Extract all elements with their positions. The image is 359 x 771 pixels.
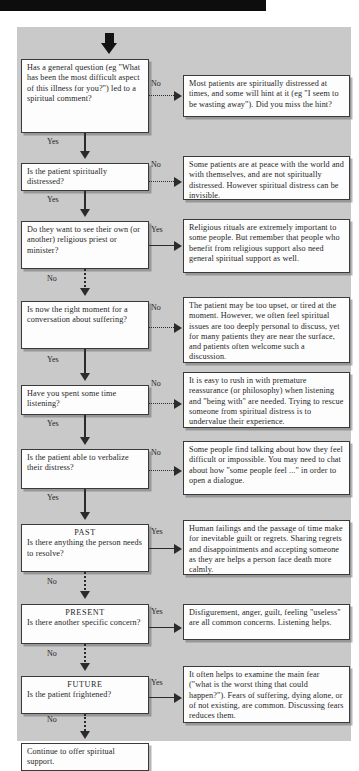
edge-q1-no-arrowhead: [174, 91, 182, 101]
edge-label-q7-yes: Yes: [151, 527, 163, 536]
edge-label-q4-no: No: [151, 303, 161, 312]
question-heading-q9: FUTURE: [27, 680, 143, 690]
edge-q7-no-arrowhead: [80, 591, 90, 599]
question-heading-q7: PAST: [27, 528, 143, 538]
response-node-r1: Most patients are spiritually distressed…: [183, 75, 350, 117]
response-node-r5: It is easy to rush in with premature rea…: [183, 372, 350, 428]
question-node-q3[interactable]: Do they want to see their own (or anothe…: [21, 221, 149, 269]
edge-label-q5-yes: Yes: [47, 419, 59, 428]
edge-q6-yes-arrowhead: [80, 512, 90, 520]
question-text-q3: Do they want to see their own (or anothe…: [27, 225, 140, 255]
edge-label-q3-yes: Yes: [151, 225, 163, 234]
edge-label-q4-yes: Yes: [47, 355, 59, 364]
question-heading-q8: PRESENT: [27, 608, 143, 618]
edge-label-q3-no: No: [47, 274, 57, 283]
response-text-r2: Some patients are at peace with the worl…: [189, 160, 344, 200]
question-node-q7[interactable]: PAST Is there anything the person needs …: [21, 524, 149, 572]
edge-q9-yes-arrowhead: [174, 693, 182, 703]
question-node-q8[interactable]: PRESENT Is there another specific concer…: [21, 604, 149, 644]
edge-label-q7-no: No: [47, 577, 57, 586]
response-node-r2: Some patients are at peace with the worl…: [183, 156, 350, 200]
question-node-q1[interactable]: Has a general question (eg "What has bee…: [21, 59, 149, 133]
terminal-text: Continue to offer spiritual support.: [27, 747, 115, 766]
edge-q9-no-arrowhead: [80, 731, 90, 739]
edge-label-q9-yes: Yes: [151, 678, 163, 687]
response-node-r9: It often helps to examine the main fear …: [183, 666, 350, 723]
start-arrow-icon: [101, 33, 118, 55]
question-node-q5[interactable]: Have you spent some time listening?: [21, 385, 149, 415]
edge-q3-yes-arrowhead: [174, 241, 182, 251]
edge-q8-yes-arrowhead: [174, 623, 182, 633]
question-text-q2: Is the patient spiritually distressed?: [27, 167, 107, 186]
edge-q6-no-arrowhead: [174, 466, 182, 476]
edge-label-q9-no: No: [47, 715, 57, 724]
edge-label-q1-no: No: [151, 79, 161, 88]
terminal-node-continue-support[interactable]: Continue to offer spiritual support.: [21, 743, 149, 771]
edge-q5-yes-arrowhead: [80, 437, 90, 445]
response-text-r5: It is easy to rush in with premature rea…: [189, 376, 343, 426]
top-black-bar: [0, 0, 266, 11]
question-text-q9: Is the patient frightened?: [27, 690, 111, 699]
question-node-q9[interactable]: FUTURE Is the patient frightened?: [21, 676, 149, 714]
edge-label-q6-no: No: [151, 448, 161, 457]
response-text-r6: Some people find talking about how they …: [189, 445, 343, 485]
question-node-q4[interactable]: Is now the right moment for a conversati…: [21, 301, 149, 349]
edge-q5-no-arrowhead: [174, 399, 182, 409]
response-text-r4: The patient may be too upset, or tired a…: [189, 301, 340, 361]
question-text-q7: Is there anything the person needs to re…: [27, 538, 142, 557]
question-text-q5: Have you spent some time listening?: [27, 389, 116, 408]
response-node-r3: Religious rituals are extremely importan…: [183, 219, 350, 273]
edge-label-q6-yes: Yes: [47, 493, 59, 502]
edge-q4-no-arrowhead: [174, 323, 182, 333]
edge-label-q1-yes: Yes: [47, 137, 59, 146]
response-node-r8: Disfigurement, anger, guilt, feeling "us…: [183, 604, 350, 640]
edge-q4-yes-line: [84, 349, 86, 376]
question-node-q6[interactable]: Is the patient able to verbalize their d…: [21, 449, 149, 489]
edge-label-q8-yes: Yes: [151, 607, 163, 616]
edge-q4-yes-arrowhead: [80, 373, 90, 381]
edge-q7-yes-arrowhead: [174, 544, 182, 554]
response-text-r7: Human failings and the passage of time m…: [189, 524, 343, 574]
edge-label-q5-no: No: [151, 379, 161, 388]
edge-q8-no-arrowhead: [80, 663, 90, 671]
response-node-r4: The patient may be too upset, or tired a…: [183, 297, 350, 363]
edge-label-q8-no: No: [47, 649, 57, 658]
edge-q2-yes-arrowhead: [80, 209, 90, 217]
response-text-r8: Disfigurement, anger, guilt, feeling "us…: [189, 608, 341, 627]
response-text-r9: It often helps to examine the main fear …: [189, 670, 344, 720]
response-node-r7: Human failings and the passage of time m…: [183, 520, 350, 575]
question-text-q1: Has a general question (eg "What has bee…: [27, 63, 140, 103]
edge-label-q2-no: No: [151, 160, 161, 169]
question-text-q6: Is the patient able to verbalize their d…: [27, 453, 129, 472]
edge-q2-no-arrowhead: [174, 177, 182, 187]
edge-q3-no-arrowhead: [80, 288, 90, 296]
response-node-r6: Some people find talking about how they …: [183, 441, 350, 495]
question-node-q2[interactable]: Is the patient spiritually distressed?: [21, 163, 149, 191]
question-text-q4: Is now the right moment for a conversati…: [27, 305, 128, 324]
response-text-r3: Religious rituals are extremely importan…: [189, 223, 340, 263]
question-text-q8: Is there another specific concern?: [27, 618, 140, 627]
edge-q1-yes-arrowhead: [80, 151, 90, 159]
flowchart-panel: Has a general question (eg "What has bee…: [17, 27, 351, 741]
response-text-r1: Most patients are spiritually distressed…: [189, 79, 339, 109]
edge-label-q2-yes: Yes: [47, 195, 59, 204]
